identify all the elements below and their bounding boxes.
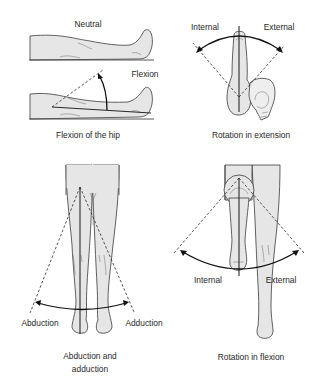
label-external-flexion: External [266,275,297,285]
panel-hip-flexion: Neutral Flexion Flexion of the hip [29,19,159,140]
panel-rotation-extension: Internal External Rotation in extension [191,22,294,140]
panel-abduction-adduction: Abduction Adduction Abduction and adduct… [21,165,163,374]
caption-abduction-and-adduction-line1: Abduction and [63,351,117,361]
label-adduction: Adduction [125,318,163,328]
label-internal-extension: Internal [191,22,219,32]
label-flexion: Flexion [132,69,159,79]
caption-rotation-in-extension: Rotation in extension [212,130,291,140]
neutral-leg-illustration [29,30,154,60]
legs-seated-illustration [224,165,280,338]
label-internal-flexion: Internal [194,275,222,285]
caption-flexion-of-the-hip: Flexion of the hip [56,130,120,140]
leg-top-view-illustration [227,31,275,120]
panel-rotation-flexion: Internal External Rotation in flexion [174,165,304,362]
label-external-extension: External [264,22,295,32]
legs-front-view-illustration [66,165,119,333]
caption-abduction-and-adduction-line2: adduction [72,364,109,374]
hip-range-of-motion-figure: Neutral Flexion Flexion of the hip Inter… [0,0,321,379]
label-neutral: Neutral [75,19,102,29]
label-abduction: Abduction [21,318,59,328]
caption-rotation-in-flexion: Rotation in flexion [218,352,285,362]
